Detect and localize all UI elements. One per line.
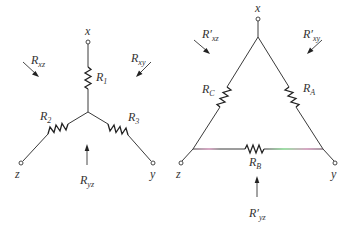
rxz-prime-label: R′xz — [201, 27, 220, 43]
delta-stub-z — [182, 149, 193, 161]
wye-branch-z-lower — [23, 134, 48, 161]
resistor-r1 — [85, 67, 91, 89]
wye-delta-diagram: x z y R1 R2 R3 Rxz Rxy — [0, 0, 347, 226]
delta-side-left-upper — [227, 37, 258, 87]
arrow-ryz-icon — [85, 144, 90, 165]
delta-network: x z y RC RA RB R′xz R′xy — [175, 1, 337, 222]
delta-terminal-y-label: y — [330, 167, 337, 181]
resistor-r3-label: R3 — [127, 110, 139, 126]
wye-terminal-z-label: z — [14, 167, 20, 181]
rxy-label: Rxy — [130, 51, 146, 67]
wye-branch-y — [88, 112, 108, 124]
delta-terminal-z-label: z — [175, 167, 181, 181]
wye-branch-z — [68, 112, 88, 124]
arrow-rxz-prime-icon — [194, 40, 210, 54]
resistor-rc-label: RC — [201, 82, 215, 98]
resistor-r1-label: R1 — [95, 70, 107, 86]
rxy-prime-label: R′xy — [302, 27, 321, 43]
delta-terminal-z — [179, 161, 183, 165]
arrow-ryz-prime-icon — [255, 176, 260, 197]
wye-terminal-y-label: y — [149, 167, 156, 181]
resistor-r3 — [108, 124, 128, 135]
delta-terminal-x — [256, 17, 260, 21]
wye-network: x z y R1 R2 R3 Rxz Rxy — [14, 24, 156, 189]
delta-side-left-lower — [193, 107, 220, 149]
wye-terminal-x — [86, 40, 90, 44]
resistor-rb — [245, 145, 264, 153]
delta-stub-y — [323, 149, 334, 161]
ryz-label: Ryz — [79, 173, 95, 189]
delta-terminal-x-label: x — [254, 1, 261, 15]
delta-terminal-y — [333, 161, 337, 165]
wye-terminal-y — [151, 161, 155, 165]
delta-side-right-lower — [296, 107, 323, 149]
resistor-ra-label: RA — [302, 81, 315, 97]
resistor-rb-label: RB — [248, 155, 261, 171]
rxz-label: Rxz — [30, 53, 46, 69]
resistor-r2-label: R2 — [39, 109, 51, 125]
wye-terminal-z — [19, 161, 23, 165]
resistor-r2 — [48, 124, 68, 135]
delta-side-right-upper — [258, 37, 289, 87]
ryz-prime-label: R′yz — [248, 206, 267, 222]
wye-terminal-x-label: x — [84, 24, 91, 38]
wye-branch-y-lower — [128, 135, 151, 161]
resistor-ra — [285, 87, 299, 107]
resistor-rc — [217, 87, 231, 107]
